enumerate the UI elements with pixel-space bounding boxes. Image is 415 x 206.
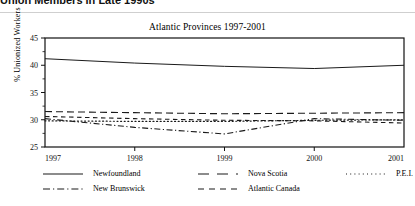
legend-item-nova-scotia: Nova Scotia (197, 169, 345, 179)
legend-item-newfoundland: Newfoundland (42, 169, 197, 179)
chart-title: Atlantic Provinces 1997-2001 (0, 22, 415, 32)
legend-item-new-brunswick: New Brunswick (42, 184, 197, 194)
legend-swatch-pei (345, 169, 387, 179)
chart-page: Union Members in Late 1990s Atlantic Pro… (0, 0, 415, 206)
legend-item-pei: P.E.I. (345, 169, 413, 179)
header-divider (0, 12, 415, 13)
svg-text:1997: 1997 (45, 154, 61, 162)
legend-swatch-new-brunswick (42, 184, 84, 194)
legend-label-newfoundland: Newfoundland (93, 169, 141, 178)
svg-text:2001: 2001 (388, 154, 404, 162)
page-top-heading: Union Members in Late 1990s (0, 0, 415, 6)
svg-text:1999: 1999 (217, 154, 233, 162)
legend-label-new-brunswick: New Brunswick (93, 184, 145, 193)
line-chart-svg: 253035404519971998199920002001 (0, 34, 415, 162)
svg-text:25: 25 (30, 143, 38, 152)
legend-swatch-nova-scotia (197, 169, 239, 179)
svg-text:30: 30 (30, 116, 38, 125)
legend-row-1: Newfoundland Nova Scotia P.E.I. (0, 166, 415, 181)
legend-label-nova-scotia: Nova Scotia (248, 169, 287, 178)
legend-swatch-atlantic-canada (197, 184, 239, 194)
svg-text:35: 35 (30, 89, 38, 98)
chart-legend: Newfoundland Nova Scotia P.E.I. New B (0, 166, 415, 206)
svg-text:40: 40 (30, 61, 38, 70)
legend-label-atlantic-canada: Atlantic Canada (248, 184, 300, 193)
svg-text:45: 45 (30, 34, 38, 43)
svg-text:2000: 2000 (306, 154, 322, 162)
plot-area: 253035404519971998199920002001 (0, 34, 415, 162)
svg-text:1998: 1998 (127, 154, 143, 162)
legend-row-2: New Brunswick Atlantic Canada (0, 181, 415, 196)
legend-item-atlantic-canada: Atlantic Canada (197, 184, 345, 194)
legend-swatch-newfoundland (42, 169, 84, 179)
legend-label-pei: P.E.I. (396, 169, 413, 178)
